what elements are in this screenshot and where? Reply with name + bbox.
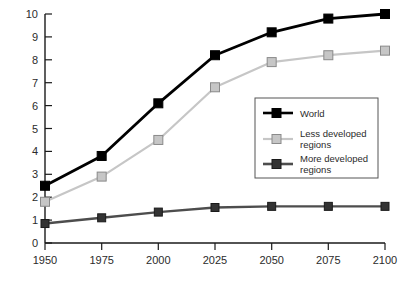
x-axis-label-2000: 2000 <box>146 254 170 266</box>
y-axis-label-2: 2 <box>32 191 38 203</box>
legend-marker-world <box>272 109 281 118</box>
y-axis-label-0: 0 <box>32 237 38 249</box>
legend-label-less-developed-line1: Less developed <box>300 128 367 139</box>
y-axis-label-7: 7 <box>32 77 38 89</box>
data-point-more-developed-regions-2075[interactable] <box>324 202 332 210</box>
data-point-less-developed-regions-2050[interactable] <box>267 58 276 67</box>
data-point-less-developed-regions-2000[interactable] <box>154 135 163 144</box>
legend: World Less developed regions More develo… <box>255 98 378 178</box>
y-axis-label-10: 10 <box>26 8 38 20</box>
y-axis-label-5: 5 <box>32 123 38 135</box>
data-point-more-developed-regions-1975[interactable] <box>98 214 106 222</box>
x-axis-label-1950: 1950 <box>33 254 57 266</box>
data-point-world-2025[interactable] <box>211 51 220 60</box>
data-point-less-developed-regions-2075[interactable] <box>324 51 333 60</box>
data-point-more-developed-regions-2100[interactable] <box>381 202 389 210</box>
y-axis-label-6: 6 <box>32 100 38 112</box>
x-axis-label-2050: 2050 <box>259 254 283 266</box>
data-point-world-1950[interactable] <box>41 181 50 190</box>
line-chart: 10 9 8 7 6 5 4 3 2 1 0 1950 1975 2000 <box>0 0 398 283</box>
y-axis-label-8: 8 <box>32 54 38 66</box>
data-point-less-developed-regions-1975[interactable] <box>97 172 106 181</box>
y-axis-label-1: 1 <box>32 214 38 226</box>
x-axis-label-2025: 2025 <box>203 254 227 266</box>
x-axis-label-2075: 2075 <box>316 254 340 266</box>
chart-container: 10 9 8 7 6 5 4 3 2 1 0 1950 1975 2000 <box>0 0 398 283</box>
y-axis-label-9: 9 <box>32 31 38 43</box>
x-axis-label-1975: 1975 <box>89 254 113 266</box>
legend-label-less-developed-line2: regions <box>300 139 331 150</box>
data-point-world-2000[interactable] <box>154 99 163 108</box>
data-point-more-developed-regions-2025[interactable] <box>211 204 219 212</box>
legend-label-world: World <box>300 108 325 119</box>
legend-label-more-developed-line2: regions <box>300 164 331 175</box>
data-point-less-developed-regions-1950[interactable] <box>41 197 50 206</box>
y-axis-label-3: 3 <box>32 168 38 180</box>
data-point-more-developed-regions-2050[interactable] <box>268 202 276 210</box>
data-point-world-1975[interactable] <box>97 151 106 160</box>
data-point-more-developed-regions-1950[interactable] <box>41 220 49 228</box>
legend-marker-more-developed <box>272 160 281 169</box>
data-point-less-developed-regions-2025[interactable] <box>211 83 220 92</box>
data-point-world-2100[interactable] <box>381 10 390 19</box>
legend-marker-less-developed <box>272 135 281 144</box>
data-point-more-developed-regions-2000[interactable] <box>154 208 162 216</box>
y-axis-label-4: 4 <box>32 145 38 157</box>
data-point-world-2050[interactable] <box>267 28 276 37</box>
data-point-world-2075[interactable] <box>324 14 333 23</box>
x-axis-label-2100: 2100 <box>373 254 397 266</box>
data-point-less-developed-regions-2100[interactable] <box>381 46 390 55</box>
legend-label-more-developed-line1: More developed <box>300 153 368 164</box>
